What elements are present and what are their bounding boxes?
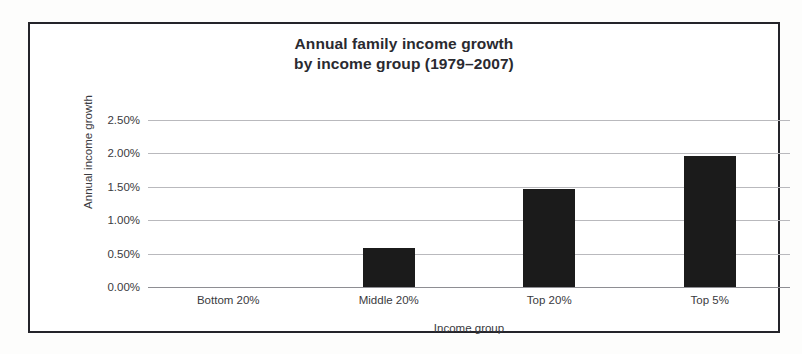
axis-baseline <box>148 287 790 288</box>
y-tick-label: 2.00% <box>84 147 140 159</box>
gridline <box>148 153 790 154</box>
chart-title-line-2: by income group (1979–2007) <box>30 54 778 74</box>
x-axis-title: Income group <box>148 322 790 334</box>
chart-frame: Annual family income growth by income gr… <box>28 22 780 333</box>
x-tick-label: Middle 20% <box>319 294 459 306</box>
y-tick-label: 1.00% <box>84 214 140 226</box>
y-tick-label: 1.50% <box>84 181 140 193</box>
chart-title: Annual family income growth by income gr… <box>30 34 778 74</box>
y-tick-label: 0.00% <box>84 281 140 293</box>
bar-top-5 <box>684 156 736 287</box>
bar-top-20 <box>523 189 575 287</box>
x-tick-label: Bottom 20% <box>158 294 298 306</box>
y-axis-tick-labels: 0.00%0.50%1.00%1.50%2.00%2.50% <box>82 120 140 287</box>
bar-middle-20 <box>363 248 415 287</box>
y-tick-label: 2.50% <box>84 114 140 126</box>
x-tick-label: Top 5% <box>640 294 780 306</box>
y-tick-label: 0.50% <box>84 248 140 260</box>
chart-title-line-1: Annual family income growth <box>30 34 778 54</box>
x-tick-label: Top 20% <box>479 294 619 306</box>
x-axis-tick-labels: Bottom 20%Middle 20%Top 20%Top 5% <box>148 294 790 312</box>
plot-area <box>148 120 790 287</box>
gridline <box>148 120 790 121</box>
chart-figure: Annual family income growth by income gr… <box>0 0 802 354</box>
